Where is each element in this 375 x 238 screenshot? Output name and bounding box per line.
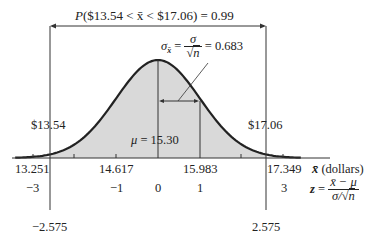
sigma-fraction: σ √n xyxy=(184,33,201,60)
x-axis-unit-label: x̄ (dollars) xyxy=(312,163,364,176)
x-tick-label: 14.617 xyxy=(99,163,133,176)
z-critical-lower: −2.575 xyxy=(32,221,67,234)
z-formula: z = x̄ − μ σ/√n xyxy=(310,176,359,203)
unit-text: (dollars) xyxy=(321,162,363,176)
upper-bound-label: $17.06 xyxy=(248,119,282,132)
lower-bound-label: $13.54 xyxy=(31,119,65,132)
z-fraction: x̄ − μ σ/√n xyxy=(328,176,359,203)
sigma-value: = 0.683 xyxy=(205,39,243,53)
x-tick-label: 17.349 xyxy=(267,163,301,176)
probability-statement: P($13.54 < x̄ < $17.06) = 0.99 xyxy=(75,9,234,22)
z-tick-label: 0 xyxy=(155,182,161,195)
n-variable: n xyxy=(193,45,199,60)
sigma-subscript: x̄ xyxy=(167,46,171,55)
z-symbol: z xyxy=(310,182,315,196)
z-denominator: σ/√n xyxy=(328,190,359,203)
arrowhead-right-icon xyxy=(260,24,266,29)
standard-error-formula: σx̄ = σ √n = 0.683 xyxy=(161,33,243,60)
z-tick-label: 1 xyxy=(197,182,203,195)
mean-value: = 15.30 xyxy=(140,133,178,147)
z-tick-label: −3 xyxy=(26,182,39,195)
sigma-denominator: √n xyxy=(184,47,201,60)
x-tick-label: 15.983 xyxy=(183,163,217,176)
z-tick-label: −1 xyxy=(110,182,123,195)
arrowhead-left-icon xyxy=(50,24,56,29)
z-tick-label: 3 xyxy=(281,182,287,195)
xbar-symbol: x̄ xyxy=(312,162,318,176)
mean-label: μ = 15.30 xyxy=(131,134,179,147)
z-critical-upper: 2.575 xyxy=(252,221,280,234)
mu-symbol: μ xyxy=(131,133,137,147)
prob-symbol: P xyxy=(75,8,83,23)
prob-text: ($13.54 < x̄ < $17.06) = 0.99 xyxy=(83,8,234,23)
x-tick-label: 13.251 xyxy=(15,163,49,176)
